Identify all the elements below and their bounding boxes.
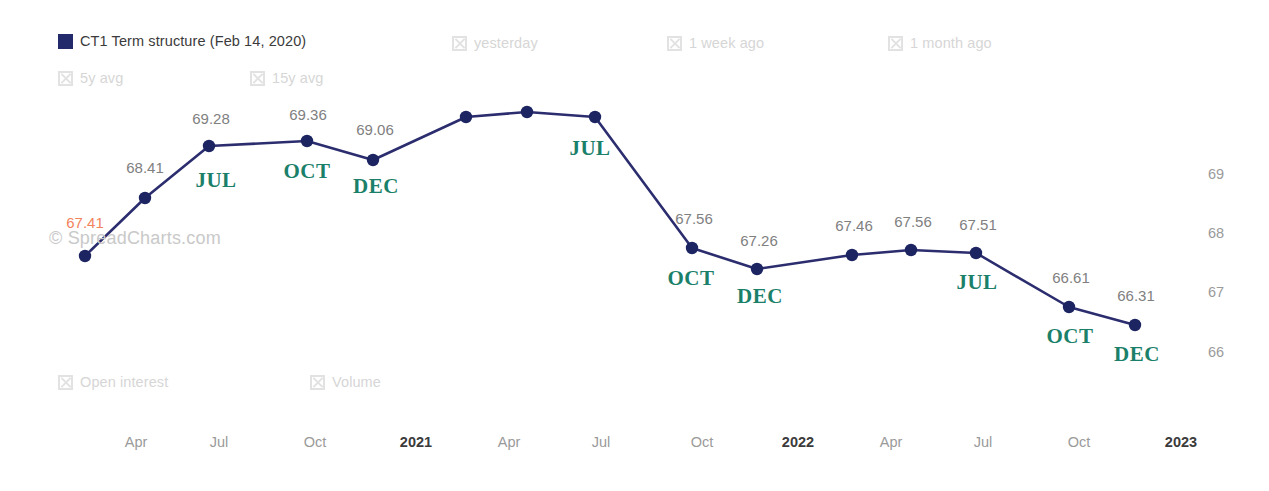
data-point-marker[interactable] <box>139 192 151 204</box>
x-axis-tick-label: Apr <box>498 435 521 450</box>
x-axis-tick-label: Apr <box>125 435 148 450</box>
data-point-marker[interactable] <box>521 106 533 118</box>
data-point-value-label: 69.06 <box>356 122 394 137</box>
x-axis-tick-label: 2022 <box>782 435 814 450</box>
contract-month-label: OCT <box>283 161 330 182</box>
data-point-marker[interactable] <box>79 250 91 262</box>
data-point-value-label: 66.61 <box>1052 270 1090 285</box>
contract-month-label: JUL <box>195 170 236 191</box>
data-point-marker[interactable] <box>1129 319 1141 331</box>
data-point-value-label: 67.46 <box>835 218 873 233</box>
x-axis-tick-label: Oct <box>691 435 714 450</box>
data-point-value-label: 67.51 <box>959 217 997 232</box>
data-point-value-label: 68.41 <box>126 160 164 175</box>
data-point-value-label: 69.28 <box>192 111 230 126</box>
data-point-marker[interactable] <box>846 249 858 261</box>
contract-month-label: DEC <box>1114 344 1160 365</box>
contract-month-label: DEC <box>353 176 399 197</box>
x-axis-tick-label: Jul <box>974 435 993 450</box>
x-axis-tick-label: Jul <box>210 435 229 450</box>
data-point-marker[interactable] <box>367 154 379 166</box>
x-axis-tick-label: 2023 <box>1165 435 1197 450</box>
y-axis-tick-label: 69 <box>1208 167 1224 182</box>
data-point-marker[interactable] <box>589 111 601 123</box>
contract-month-label: DEC <box>737 286 783 307</box>
x-axis-tick-label: Jul <box>592 435 611 450</box>
x-axis-tick-label: Apr <box>880 435 903 450</box>
data-point-marker[interactable] <box>751 263 763 275</box>
data-point-marker[interactable] <box>301 135 313 147</box>
data-point-marker[interactable] <box>970 247 982 259</box>
x-axis-tick-label: Oct <box>1068 435 1091 450</box>
y-axis-tick-label: 68 <box>1208 226 1224 241</box>
data-point-value-label: 67.56 <box>675 211 713 226</box>
data-point-value-label: 69.36 <box>289 107 327 122</box>
contract-month-label: JUL <box>956 272 997 293</box>
data-point-value-label: 67.26 <box>740 233 778 248</box>
data-point-marker[interactable] <box>1063 301 1075 313</box>
contract-month-label: OCT <box>667 268 714 289</box>
x-axis-tick-label: Oct <box>304 435 327 450</box>
y-axis-tick-label: 67 <box>1208 285 1224 300</box>
data-point-marker[interactable] <box>686 242 698 254</box>
contract-month-label: JUL <box>569 138 610 159</box>
watermark: © SpreadCharts.com <box>49 229 221 247</box>
data-point-marker[interactable] <box>203 140 215 152</box>
data-point-value-label: 66.31 <box>1117 288 1155 303</box>
term-structure-chart-widget: CT1 Term structure (Feb 14, 2020)yesterd… <box>0 0 1269 491</box>
contract-month-label: OCT <box>1046 326 1093 347</box>
data-point-value-label: 67.56 <box>894 214 932 229</box>
data-point-marker[interactable] <box>460 111 472 123</box>
y-axis-tick-label: 66 <box>1208 345 1224 360</box>
x-axis-tick-label: 2021 <box>400 435 432 450</box>
data-point-marker[interactable] <box>905 244 917 256</box>
